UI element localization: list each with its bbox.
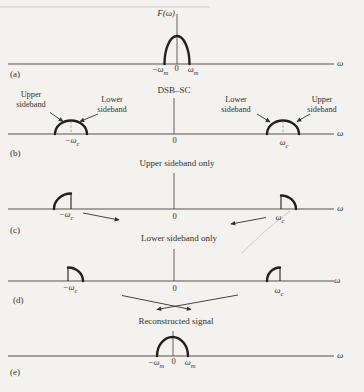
panel-a-tick-zero: 0 bbox=[172, 64, 181, 73]
panel-d-right-lsb-curve bbox=[267, 268, 280, 282]
panel-d-tick-neg-omega-c: −ωc bbox=[56, 283, 84, 294]
panel-c-tick-neg-omega-c: −ωc bbox=[52, 210, 80, 221]
panel-c-tag: (c) bbox=[10, 225, 20, 235]
panel-c-right-usb-curve bbox=[281, 196, 296, 210]
cross-arrow-left-to-right bbox=[122, 296, 191, 310]
panel-b-upper-sideband-right-label: Upper sideband bbox=[298, 95, 346, 116]
panel-d-graph bbox=[8, 249, 334, 310]
panel-d-tick-zero: 0 bbox=[170, 284, 179, 293]
panel-a-tick-neg-omega-m: −ωm bbox=[146, 65, 174, 76]
panel-c-left-shift-arrow bbox=[83, 213, 119, 220]
panel-a-ylabel: F(ω) bbox=[143, 8, 175, 18]
panel-b-title: DSB–SC bbox=[150, 86, 198, 96]
panel-d-tick-pos-omega-c: ωc bbox=[268, 286, 290, 297]
panel-c-left-usb-curve bbox=[54, 194, 71, 210]
panel-b-tick-zero: 0 bbox=[170, 136, 179, 145]
panel-e-tick-pos-omega-m: ωm bbox=[179, 358, 201, 369]
figure-canvas bbox=[0, 0, 364, 392]
panel-d-tag: (d) bbox=[13, 295, 24, 305]
upper-left-pointer-arrow bbox=[50, 113, 63, 122]
panel-c-title: Upper sideband only bbox=[117, 159, 237, 169]
panel-c-omega-label: ω bbox=[337, 203, 343, 213]
panel-c-tick-pos-omega-c: ωc bbox=[269, 213, 291, 224]
panel-b-tick-pos-omega-c: ωc bbox=[273, 138, 295, 149]
panel-b-omega-label: ω bbox=[337, 128, 343, 138]
panel-b-tick-neg-omega-c: −ωc bbox=[58, 136, 86, 147]
panel-e-omega-label: ω bbox=[337, 350, 343, 360]
panel-a-tag: (a) bbox=[10, 69, 20, 79]
sideband-spectra-figure: F(ω) ω −ωm 0 ωm (a) DSB–SC Upper sideban… bbox=[0, 0, 364, 392]
panel-a-omega-label: ω bbox=[337, 58, 343, 68]
panel-e-tick-neg-omega-m: −ωm bbox=[142, 358, 170, 369]
panel-b-tag: (b) bbox=[10, 148, 21, 158]
panel-e-tick-zero: 0 bbox=[169, 357, 178, 366]
panel-a-graph bbox=[8, 14, 334, 64]
cross-arrow-right-to-left bbox=[157, 295, 238, 310]
panel-b-lower-sideband-left-label: Lower sideband bbox=[88, 95, 136, 116]
panel-e-graph bbox=[8, 331, 334, 356]
panel-d-title: Lower sideband only bbox=[119, 234, 239, 244]
panel-d-left-lsb-curve bbox=[68, 268, 83, 282]
panel-a-tick-pos-omega-m: ωm bbox=[182, 65, 204, 76]
panel-d-omega-label: ω bbox=[334, 275, 340, 285]
panel-e-tag: (e) bbox=[10, 367, 20, 377]
panel-e-title: Reconstructed signal bbox=[116, 317, 236, 327]
panel-e-spectrum-dome bbox=[157, 337, 188, 356]
panel-c-tick-zero: 0 bbox=[170, 212, 179, 221]
panel-b-upper-sideband-left-label: Upper sideband bbox=[7, 90, 55, 111]
panel-b-graph bbox=[8, 98, 334, 134]
panel-b-lower-sideband-right-label: Lower sideband bbox=[212, 95, 260, 116]
panel-c-right-shift-arrow bbox=[231, 218, 266, 225]
